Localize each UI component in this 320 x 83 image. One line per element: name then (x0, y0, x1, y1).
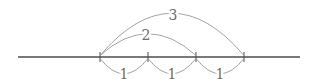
number-line-figure: 11123 (0, 0, 320, 83)
unit-arc-3-label: 1 (216, 66, 225, 82)
unit-arc-2-label: 1 (168, 66, 177, 82)
span-arc-2-label: 2 (142, 27, 151, 43)
unit-arc-1-label: 1 (120, 66, 129, 82)
span-arc-3-label: 3 (169, 7, 178, 23)
number-line-diagram-svg: 11123 (0, 0, 320, 83)
